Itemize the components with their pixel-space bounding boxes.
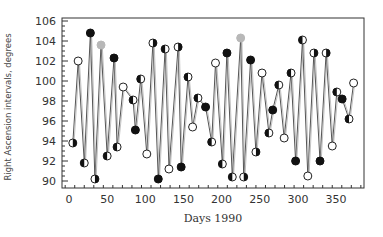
- data-point-half-right: [69, 139, 77, 147]
- data-point-filled: [292, 157, 300, 165]
- data-point-half-left: [161, 45, 169, 53]
- x-tick-label: 0: [66, 193, 73, 206]
- chart: 9092949698100102104106 05010015020025030…: [0, 0, 383, 237]
- data-point-half-right: [252, 148, 260, 156]
- data-point-half-left: [208, 138, 216, 146]
- data-point-half-right: [174, 43, 182, 51]
- data-point-open: [328, 142, 336, 150]
- data-point-half-left: [287, 69, 295, 77]
- data-point-filled: [86, 29, 94, 37]
- data-point-half-right: [91, 175, 99, 183]
- data-point-open: [74, 57, 82, 65]
- data-point-half-left: [228, 173, 236, 181]
- data-point-open: [350, 79, 358, 87]
- data-point-filled: [247, 56, 255, 64]
- x-tick-label: 50: [100, 193, 114, 206]
- data-point-half-left: [129, 96, 137, 104]
- data-point-open: [304, 172, 312, 180]
- data-point-half-right: [149, 39, 157, 47]
- y-tick-label: 104: [35, 35, 56, 48]
- y-tick-label: 92: [42, 155, 56, 168]
- y-tick-label: 102: [35, 55, 56, 68]
- x-tick-label: 100: [135, 193, 156, 206]
- x-axis-title: Days 1990: [184, 212, 243, 225]
- data-point-filled: [110, 54, 118, 62]
- data-point-half-left: [113, 143, 121, 151]
- y-tick-label: 94: [42, 135, 56, 148]
- data-point-half-left: [103, 152, 111, 160]
- y-tick-label: 106: [35, 15, 56, 28]
- data-point-half-left: [333, 88, 341, 96]
- data-point-half-left: [184, 73, 192, 81]
- data-point-filled: [131, 126, 139, 134]
- y-tick-label: 90: [42, 175, 56, 188]
- data-point-filled: [202, 103, 210, 111]
- data-point-filled: [269, 106, 277, 114]
- x-tick-label: 300: [287, 193, 308, 206]
- data-point-open: [119, 83, 127, 91]
- data-point-half-left: [275, 81, 283, 89]
- data-point-open: [143, 150, 151, 158]
- data-point-half-left: [137, 75, 145, 83]
- x-tick-label: 350: [326, 193, 347, 206]
- y-tick-label: 96: [42, 115, 56, 128]
- data-point-gray: [237, 34, 245, 42]
- data-point-filled: [316, 157, 324, 165]
- data-point-half-right: [310, 49, 318, 57]
- data-point-open: [280, 134, 288, 142]
- data-point-half-left: [345, 115, 353, 123]
- x-tick-label: 150: [173, 193, 194, 206]
- data-point-half-left: [80, 159, 88, 167]
- y-axis-title: Right Ascension intervals, degrees: [3, 33, 13, 181]
- data-point-filled: [338, 95, 346, 103]
- data-point-half-left: [298, 36, 306, 44]
- y-tick-label: 98: [42, 95, 56, 108]
- data-point-filled: [177, 163, 185, 171]
- data-point-half-left: [218, 160, 226, 168]
- data-point-gray: [97, 41, 105, 49]
- x-tick-label: 200: [211, 193, 232, 206]
- data-point-half-left: [265, 129, 273, 137]
- data-point-open: [258, 69, 266, 77]
- data-point-half-left: [194, 94, 202, 102]
- data-point-filled: [154, 175, 162, 183]
- data-point-open: [189, 123, 197, 131]
- x-tick-label: 250: [249, 193, 270, 206]
- data-point-open: [211, 59, 219, 67]
- y-tick-label: 100: [35, 75, 56, 88]
- data-point-half-right: [240, 173, 248, 181]
- data-point-filled: [223, 49, 231, 57]
- data-point-open: [165, 165, 173, 173]
- data-point-half-right: [322, 49, 330, 57]
- y-axis-ticks: 9092949698100102104106: [35, 15, 68, 188]
